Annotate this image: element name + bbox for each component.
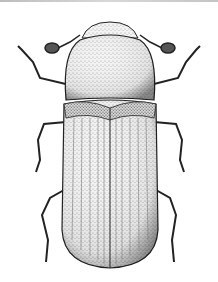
pronotum (65, 35, 154, 100)
beetle-illustration (0, 0, 218, 282)
elytra (62, 100, 158, 268)
